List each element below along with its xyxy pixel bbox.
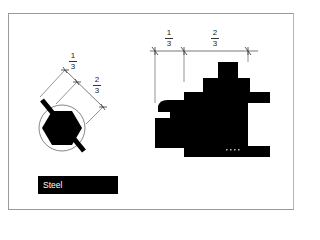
- stepped-profile: [155, 62, 270, 157]
- denominator: 3: [210, 40, 220, 48]
- numerator: 1: [164, 29, 174, 37]
- denominator: 3: [92, 87, 102, 95]
- right-fraction-1: 1 3: [164, 29, 174, 48]
- material-label-box: Steel: [38, 176, 118, 194]
- left-extension-line-3: [86, 107, 103, 124]
- left-extension-line-2: [56, 82, 77, 104]
- numerator: 2: [92, 76, 102, 84]
- numerator: 2: [210, 29, 220, 37]
- right-fraction-2: 2 3: [210, 29, 220, 48]
- denominator: 3: [164, 40, 174, 48]
- material-label: Steel: [43, 180, 62, 190]
- numerator: 1: [68, 52, 78, 60]
- left-fraction-1: 1 3: [68, 52, 78, 71]
- denominator: 3: [68, 63, 78, 71]
- left-fraction-2: 2 3: [92, 76, 102, 95]
- left-extension-line-1: [40, 70, 65, 97]
- right-figure: [150, 47, 270, 157]
